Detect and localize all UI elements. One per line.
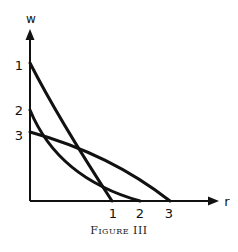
curve-3 (30, 132, 170, 201)
figure-caption: Figure III (0, 224, 238, 237)
x-axis-arrow-icon (208, 197, 219, 206)
x-axis-label: r (224, 195, 229, 208)
x-tick-1: 1 (109, 207, 117, 220)
y-tick-3: 3 (15, 129, 23, 142)
y-tick-2: 2 (15, 104, 23, 117)
y-axis-label: w (26, 13, 36, 25)
y-axis-arrow-icon (26, 29, 35, 40)
curve-2 (30, 110, 140, 201)
figure-iii: w r 1 2 3 1 2 3 Figure III (0, 0, 238, 252)
x-tick-3: 3 (165, 207, 173, 220)
y-tick-1: 1 (15, 59, 23, 72)
chart-canvas (0, 0, 238, 252)
x-tick-2: 2 (136, 207, 144, 220)
